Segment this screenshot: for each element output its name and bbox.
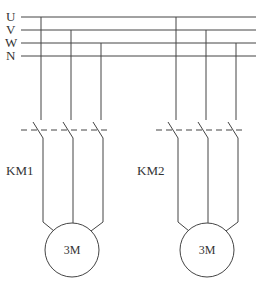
bus-label-n: N	[6, 48, 16, 63]
lead-km2-u	[178, 138, 189, 231]
motor-2-label: 3M	[199, 243, 216, 257]
contactor-label-km2: KM2	[137, 163, 164, 178]
circuit-diagram: U V W N 3M KM1	[0, 0, 256, 283]
lead-km2-w	[226, 138, 238, 231]
lead-km1-u	[43, 138, 54, 231]
circuit-svg: U V W N 3M KM1	[0, 0, 256, 283]
lead-km1-w	[91, 138, 103, 231]
motor-1-label: 3M	[64, 243, 81, 257]
contactor-label-km1: KM1	[6, 163, 33, 178]
